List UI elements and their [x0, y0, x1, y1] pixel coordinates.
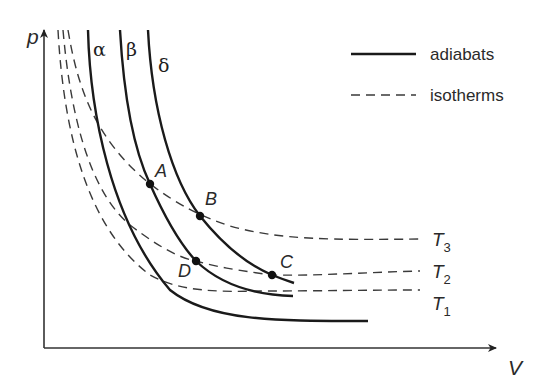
point-d-label: D	[178, 261, 191, 281]
y-axis-label: p	[26, 25, 39, 48]
x-axis-label: V	[508, 356, 524, 379]
isotherm-t2	[63, 30, 420, 275]
point-d	[192, 257, 200, 265]
adiabat-alpha-label: α	[93, 38, 106, 60]
adiabat-alpha	[88, 30, 368, 321]
adiabat-delta	[148, 30, 294, 283]
adiabat-delta-label: δ	[158, 54, 169, 76]
point-c-label: C	[280, 252, 294, 272]
point-b	[196, 212, 204, 220]
isotherm-labels: T3 T2 T1	[432, 229, 451, 319]
isotherm-t1-label: T1	[432, 293, 451, 319]
isotherm-t1	[58, 30, 420, 291]
legend-isotherms-label: isotherms	[430, 86, 504, 105]
adiabats	[88, 30, 368, 321]
point-c	[268, 271, 276, 279]
point-a-label: A	[154, 161, 167, 181]
point-a	[146, 180, 154, 188]
isotherm-t2-label: T2	[432, 261, 451, 287]
adiabat-beta-label: β	[126, 38, 137, 60]
legend-adiabats-label: adiabats	[430, 45, 494, 64]
point-b-label: B	[205, 189, 217, 209]
pv-diagram: p V α β δ A B C D T3 T2 T1 adiabats isot…	[0, 0, 554, 390]
legend: adiabats isotherms	[351, 45, 504, 105]
axes: p V	[26, 25, 524, 379]
isotherm-t3-label: T3	[432, 229, 451, 255]
isotherms	[58, 30, 420, 291]
